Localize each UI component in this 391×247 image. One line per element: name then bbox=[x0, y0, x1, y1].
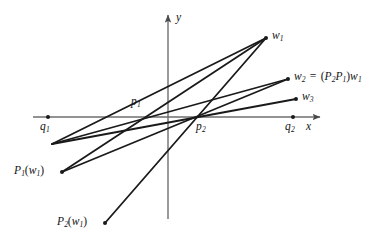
axes-group bbox=[33, 15, 320, 219]
y-axis-label: y bbox=[176, 12, 181, 24]
label-q1: q1 bbox=[40, 121, 50, 133]
ray-segments-group bbox=[52, 38, 296, 223]
label-w3: w3 bbox=[302, 91, 313, 103]
label-P1w1: P1(w1) bbox=[14, 165, 44, 177]
label-p2: p2 bbox=[196, 121, 206, 133]
segment-w2-to-left-end bbox=[52, 79, 288, 144]
point-dot-q1 bbox=[46, 115, 50, 119]
point-dot-w3 bbox=[294, 97, 298, 101]
segment-w2-to-P1w1 bbox=[62, 79, 288, 172]
point-dot-P2w1 bbox=[103, 221, 107, 225]
label-q2: q2 bbox=[285, 121, 295, 133]
point-dot-w2 bbox=[286, 77, 290, 81]
segment-w3-to-left-end bbox=[52, 99, 296, 144]
geometry-figure: q1q2p1p2w1w2 = (P2P1)w1w3P1(w1)P2(w1)xy bbox=[0, 0, 391, 247]
point-dots-group bbox=[46, 36, 298, 225]
label-p1: p1 bbox=[131, 96, 141, 108]
segment-w1-to-P1w1 bbox=[62, 38, 266, 172]
segment-w1-to-left-end bbox=[52, 38, 266, 144]
label-P2w1: P2(w1) bbox=[57, 216, 87, 228]
point-dot-q2 bbox=[291, 115, 295, 119]
label-w2: w2 = (P2P1)w1 bbox=[294, 71, 362, 83]
label-w1: w1 bbox=[272, 30, 283, 42]
point-dot-P1w1 bbox=[60, 170, 64, 174]
point-dot-w1 bbox=[264, 36, 268, 40]
x-axis-label: x bbox=[306, 121, 311, 133]
